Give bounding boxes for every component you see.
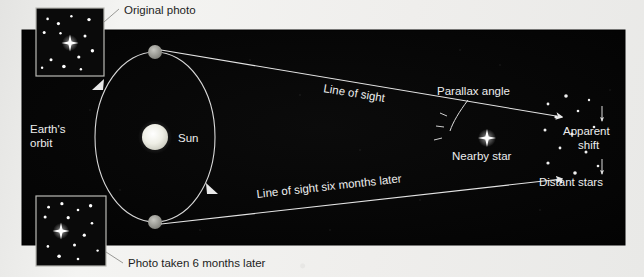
earth-position-top [148, 45, 162, 59]
photo-six-months-later-label: Photo taken 6 months later [128, 257, 266, 269]
inset-original-photo[interactable] [36, 8, 104, 76]
parallax-angle-label: Parallax angle [437, 85, 510, 97]
inset-photo-six-months-later[interactable] [36, 196, 106, 266]
distant-stars-label: Distant stars [539, 176, 603, 188]
earths-orbit-label-line2: orbit [30, 137, 53, 149]
sun [138, 120, 172, 154]
earths-orbit-label-line1: Earth's [30, 123, 66, 135]
original-photo-label: Original photo [124, 4, 196, 16]
leader-photo-six-months [106, 252, 123, 263]
sky-panel [22, 30, 625, 245]
leader-original-photo [104, 9, 119, 22]
apparent-shift-label-line2: shift [578, 139, 600, 151]
sun-label: Sun [178, 132, 198, 144]
nearby-star-label: Nearby star [452, 150, 512, 162]
parallax-diagram: Sun [0, 0, 644, 277]
earth-position-bottom [148, 215, 162, 229]
nearby-star [478, 129, 496, 147]
apparent-shift-label-line1: Apparent [563, 125, 610, 137]
